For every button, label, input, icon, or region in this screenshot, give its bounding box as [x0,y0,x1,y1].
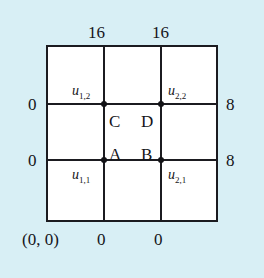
boundary-label-top-left: 16 [88,24,105,41]
node-label-u22: u2,2 [168,84,186,98]
boundary-label-top-right: 16 [152,24,169,41]
boundary-label-right-lower: 8 [226,152,235,169]
node-label-u21-sub: 2,1 [175,175,186,185]
node-label-u12-sub: 1,2 [79,91,90,101]
boundary-label-bottom-right: 0 [154,231,163,248]
node-label-u12: u1,2 [72,84,90,98]
node-dot-u12 [101,101,107,107]
grid-box [46,45,218,222]
boundary-label-left-lower: 0 [28,152,37,169]
gridline-vertical-2 [160,47,162,220]
region-label-b: B [141,146,152,163]
node-label-u11-base: u [72,167,79,182]
node-label-u11-sub: 1,1 [79,175,90,185]
node-label-u12-base: u [72,83,79,98]
figure-root: 16 16 0 0 8 8 0 0 (0, 0) u1,2 u2,2 u1,1 … [0,0,264,278]
node-label-u21-base: u [168,167,175,182]
gridline-horizontal-2 [48,159,216,161]
node-dot-u21 [158,157,164,163]
node-label-u11: u1,1 [72,168,90,182]
node-label-u22-sub: 2,2 [175,91,186,101]
node-label-u21: u2,1 [168,168,186,182]
boundary-label-bottom-left: 0 [97,231,106,248]
region-label-d: D [141,113,153,130]
region-label-a: A [109,146,121,163]
gridline-horizontal-1 [48,103,216,105]
boundary-label-right-upper: 8 [226,96,235,113]
node-dot-u22 [158,101,164,107]
node-label-u22-base: u [168,83,175,98]
gridline-vertical-1 [103,47,105,220]
boundary-label-left-upper: 0 [28,96,37,113]
node-dot-u11 [101,157,107,163]
region-label-c: C [109,113,120,130]
origin-label: (0, 0) [22,231,59,248]
